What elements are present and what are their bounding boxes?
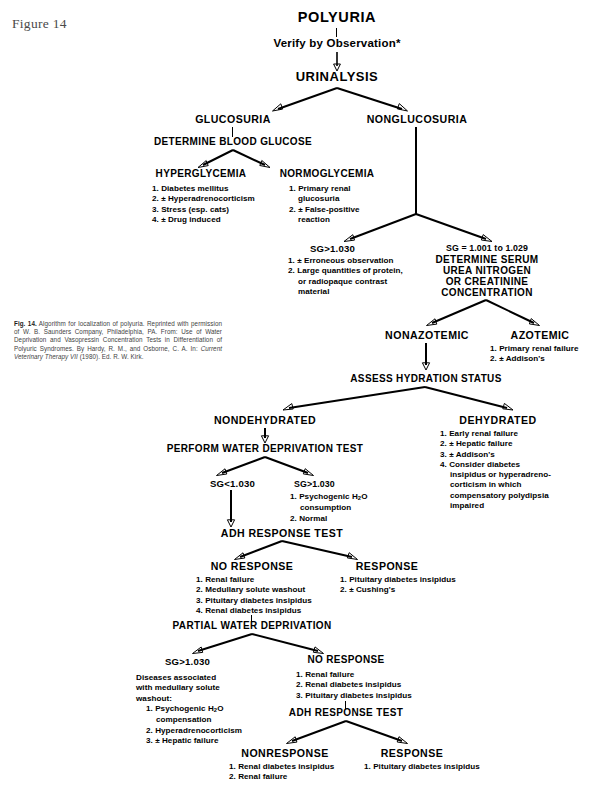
list-header-line: washout:: [136, 694, 242, 704]
list-item-cont: glucosuria: [289, 194, 360, 204]
list-item: 3. Pituitary diabetes insipidus: [296, 691, 412, 701]
list-item: 1. Early renal failure: [440, 429, 551, 439]
list-item: 4. Consider diabetes: [440, 460, 551, 470]
list-item: 2. ± Hyperadrenocorticism: [152, 194, 255, 204]
list-no-response-b: 1. Renal failure 2. Renal diabetes insip…: [296, 670, 412, 701]
list-item: 4. ± Drug induced: [152, 215, 255, 225]
connector-nonglucosuria-stem: [415, 127, 417, 215]
arrow-nonazotemic-to-assess: [420, 343, 434, 371]
list-item: 1. Psychogenic H2O: [290, 492, 367, 503]
node-perform-water-deprivation-test: PERFORM WATER DEPRIVATION TEST: [167, 444, 364, 455]
arrow-sg-lt-to-adh: [225, 490, 239, 528]
list-header-line: with medullary solute: [136, 683, 242, 693]
node-adh-response-test: ADH RESPONSE TEST: [221, 528, 343, 539]
list-response: 1. Pituitary diabetes insipidus 2. ± Cus…: [340, 575, 456, 596]
list-item-cont: compensatory polydipsia: [440, 491, 551, 501]
list-item: 1. Primary renal failure: [490, 344, 578, 354]
list-item: 2. Hyperadrenocorticism: [136, 726, 242, 736]
node-normoglycemia: NORMOGLYCEMIA: [280, 169, 375, 180]
list-item: 3. ± Hepatic failure: [136, 736, 242, 746]
caption-prefix: Fig. 14.: [14, 320, 37, 327]
node-glucosuria: GLUCOSURIA: [195, 114, 271, 125]
list-azotemic: 1. Primary renal failure 2. ± Addison's: [490, 344, 578, 365]
list-item: 4. Renal diabetes insipidus: [196, 606, 312, 616]
node-polyuria: POLYURIA: [298, 10, 376, 25]
caption-text-1: Algorithm for localization of polyuria. …: [14, 320, 222, 352]
list-item: 2. Normal: [290, 514, 367, 524]
node-determine-blood-glucose: DETERMINE BLOOD GLUCOSE: [154, 137, 312, 148]
list-item-cont: compensation: [136, 715, 242, 725]
list-header-line: Diseases associated: [136, 673, 242, 683]
node-urinalysis: URINALYSIS: [296, 70, 379, 84]
arrows-urinalysis-split: [244, 88, 434, 116]
figure-number-label: Figure 14: [12, 16, 67, 32]
list-item-cont: consumption: [290, 503, 367, 513]
list-item: 1. Primary renal: [289, 184, 360, 194]
arrows-serum-split: [410, 300, 560, 332]
list-item: 1. Psychogenic H2O: [136, 704, 242, 715]
list-item: 1. Diabetes mellitus: [152, 184, 255, 194]
node-determine-serum-line2: UREA NITROGEN: [443, 266, 531, 277]
list-item: 1. Renal failure: [196, 575, 312, 585]
node-nondehydrated: NONDEHYDRATED: [214, 415, 316, 426]
node-partial-water-deprivation: PARTIAL WATER DEPRIVATION: [173, 621, 332, 632]
node-response: RESPONSE: [356, 561, 418, 572]
list-hyperglycemia: 1. Diabetes mellitus 2. ± Hyperadrenocor…: [152, 184, 255, 225]
node-nonresponse: NONRESPONSE: [241, 748, 328, 759]
node-determine-serum-line1: DETERMINE SERUM: [435, 255, 538, 266]
arrow-nondehydrated-to-perform: [259, 428, 273, 444]
node-sg-gt-1030-b: SG>1.030: [165, 656, 210, 667]
list-item: 3. ± Addison's: [440, 450, 551, 460]
node-dehydrated: DEHYDRATED: [459, 415, 536, 426]
node-nonazotemic: NONAZOTEMIC: [385, 330, 469, 341]
list-item: 2. Large quantities of protein,: [288, 266, 403, 276]
list-nonresponse: 1. Renal diabetes insipidus 2. Renal fai…: [229, 762, 334, 783]
node-sg-gt-1030: SG>1.030: [294, 479, 335, 489]
arrows-adh-b-split: [256, 721, 446, 749]
figure-caption: Fig. 14. Algorithm for localization of p…: [14, 320, 222, 361]
list-item: 2. Renal failure: [229, 772, 334, 782]
list-item: 1. Pituitary diabetes insipidus: [340, 575, 456, 585]
list-item: 2. ± Cushing's: [340, 585, 456, 595]
node-adh-response-test-b: ADH RESPONSE TEST: [289, 708, 403, 719]
list-item: 3. Stress (esp. cats): [152, 205, 255, 215]
list-item: 2. Renal diabetes insipidus: [296, 680, 412, 690]
node-verify-by-observation: Verify by Observation*: [273, 37, 400, 49]
node-assess-hydration-status: ASSESS HYDRATION STATUS: [350, 374, 501, 385]
list-item: 2. Medullary solute washout: [196, 585, 312, 595]
figure-canvas: Figure 14 Fig. 14. Algorithm for localiz…: [0, 0, 599, 806]
list-item: 1. Pituitary diabetes insipidus: [364, 762, 480, 772]
node-nonglucosuria: NONGLUCOSURIA: [367, 114, 468, 125]
node-sg-range: SG = 1.001 to 1.029: [446, 243, 528, 253]
list-item: 1. Renal failure: [296, 670, 412, 680]
caption-text-2: (1980). Ed. R. W. Kirk.: [78, 353, 144, 360]
node-sg-high: SG>1.030: [310, 243, 355, 254]
connector-polyuria-verify: [336, 28, 337, 37]
node-sg-lt-1030: SG<1.030: [210, 478, 255, 489]
node-response-b: RESPONSE: [381, 748, 443, 759]
node-hyperglycemia: HYPERGLYCEMIA: [156, 169, 247, 180]
node-determine-serum-line4: CONCENTRATION: [441, 288, 533, 299]
list-item: 1. Renal diabetes insipidus: [229, 762, 334, 772]
node-determine-serum-line3: OR CREATININE: [446, 277, 529, 288]
list-item: 1. ± Erroneous observation: [288, 256, 403, 266]
list-sg-gt-1030: 1. Psychogenic H2O consumption 2. Normal: [290, 492, 367, 524]
list-no-response: 1. Renal failure 2. Medullary solute was…: [196, 575, 312, 616]
list-sg-gt-1030-b: Diseases associated with medullary solut…: [136, 673, 242, 746]
list-item-cont: insipidus or hyperadreno-: [440, 470, 551, 480]
list-item-cont: corticism in which: [440, 480, 551, 490]
arrows-hydration-split: [245, 387, 555, 417]
node-no-response-b: NO RESPONSE: [307, 655, 384, 666]
list-item-cont: or radiopaque contrast: [288, 277, 403, 287]
list-item-cont: material: [288, 287, 403, 297]
list-sg-high: 1. ± Erroneous observation 2. Large quan…: [288, 256, 403, 297]
list-item: 3. Pituitary diabetes insipidus: [196, 596, 312, 606]
node-azotemic: AZOTEMIC: [511, 330, 570, 341]
node-no-response: NO RESPONSE: [211, 561, 294, 572]
list-dehydrated: 1. Early renal failure 2. ± Hepatic fail…: [440, 429, 551, 511]
list-item-cont: impaired: [440, 501, 551, 511]
list-response-b: 1. Pituitary diabetes insipidus: [364, 762, 480, 772]
list-item: 2. ± Addison's: [490, 354, 578, 364]
list-item: 2. ± Hepatic failure: [440, 439, 551, 449]
